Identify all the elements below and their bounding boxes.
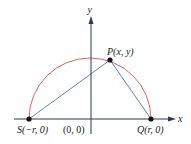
point-s: [26, 116, 31, 121]
point-s-label: S(−r, 0): [17, 124, 49, 136]
semicircle-arc: [29, 58, 151, 119]
point-p-label: P(x, y): [106, 46, 134, 58]
x-axis-label: x: [177, 113, 183, 124]
x-axis-arrow-icon: [168, 117, 176, 122]
segment-sp: [29, 60, 110, 119]
semicircle-diagram: x y P(x, y) S(−r, 0) Q(r, 0) (0, 0): [0, 0, 191, 144]
y-axis-label: y: [87, 4, 93, 15]
point-q: [148, 116, 153, 121]
origin-label: (0, 0): [63, 124, 85, 136]
y-axis-arrow-icon: [89, 16, 94, 24]
point-q-label: Q(r, 0): [137, 124, 164, 136]
segment-pq: [110, 60, 151, 119]
point-p: [107, 57, 112, 62]
